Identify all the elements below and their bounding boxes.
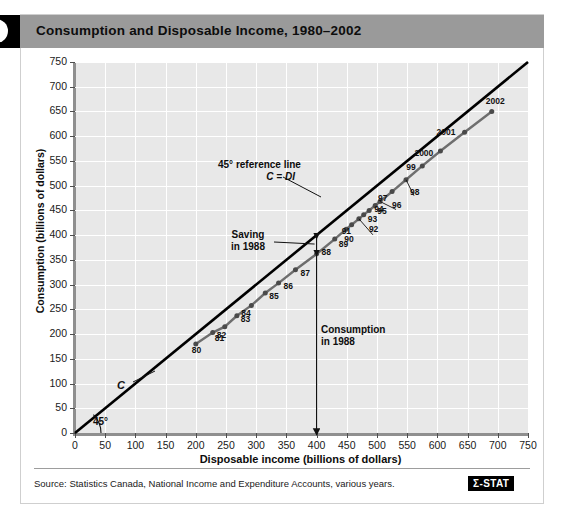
gridline-horizontal <box>75 334 528 335</box>
gridline-vertical <box>166 62 167 433</box>
x-tick-label: 750 <box>508 439 548 451</box>
angle-45-label: 45° <box>93 416 108 427</box>
annotation-saving: Saving in 1988 <box>217 229 279 253</box>
point-label-92: 92 <box>369 224 378 234</box>
point-label-84: 84 <box>241 308 250 318</box>
point-label-91: 91 <box>342 226 351 236</box>
point-label-80: 80 <box>192 345 201 355</box>
y-tick-mark <box>70 87 75 88</box>
y-tick-mark <box>70 136 75 137</box>
gridline-vertical <box>317 62 318 433</box>
y-tick-mark <box>70 161 75 162</box>
y-tick-mark <box>70 309 75 310</box>
point-label-93: 93 <box>368 214 377 224</box>
tab-arc-icon <box>0 19 8 43</box>
y-tick-label: 600 <box>27 129 67 141</box>
annotation-consumption-1: Consumption <box>321 324 385 335</box>
y-tick-label: 250 <box>27 302 67 314</box>
point-label-87: 87 <box>300 268 309 278</box>
y-tick-label: 700 <box>27 80 67 92</box>
figure-title: Consumption and Disposable Income, 1980–… <box>36 23 361 38</box>
x-tick-mark <box>437 433 438 438</box>
y-tick-label: 0 <box>27 426 67 438</box>
gridline-vertical <box>135 62 136 433</box>
x-tick-mark <box>105 433 106 438</box>
gridline-vertical <box>105 62 106 433</box>
point-label-86: 86 <box>284 281 293 291</box>
y-tick-label: 450 <box>27 203 67 215</box>
y-axis-line <box>73 62 76 433</box>
point-label-97: 97 <box>378 193 387 203</box>
x-tick-mark <box>377 433 378 438</box>
y-tick-mark <box>70 111 75 112</box>
point-label-95: 95 <box>377 206 386 216</box>
x-tick-mark <box>196 433 197 438</box>
gridline-horizontal <box>75 111 528 112</box>
y-tick-mark <box>70 62 75 63</box>
gridline-horizontal <box>75 136 528 137</box>
footer-divider <box>34 468 530 469</box>
x-axis-line <box>73 433 528 436</box>
y-tick-label: 150 <box>27 352 67 364</box>
figure-header-band: Consumption and Disposable Income, 1980–… <box>20 15 544 48</box>
annotation-reference-line-2: C = DI <box>218 171 301 183</box>
gridline-horizontal <box>75 62 528 63</box>
plot-region <box>75 62 528 433</box>
y-tick-label: 500 <box>27 179 67 191</box>
point-label-96: 96 <box>392 200 401 210</box>
point-label-98: 98 <box>410 187 419 197</box>
y-tick-label: 200 <box>27 327 67 339</box>
y-tick-label: 400 <box>27 228 67 240</box>
point-label-85: 85 <box>269 291 278 301</box>
gridline-horizontal <box>75 260 528 261</box>
figure-container: Consumption and Disposable Income, 1980–… <box>0 0 564 524</box>
point-label-88: 88 <box>322 247 331 257</box>
gridline-vertical <box>377 62 378 433</box>
gridline-horizontal <box>75 87 528 88</box>
gridline-vertical <box>437 62 438 433</box>
y-tick-label: 750 <box>27 55 67 67</box>
y-tick-mark <box>70 235 75 236</box>
y-tick-mark <box>70 260 75 261</box>
y-tick-mark <box>70 359 75 360</box>
y-tick-mark <box>70 408 75 409</box>
x-axis-label: Disposable income (billions of dollars) <box>73 453 528 465</box>
gridline-vertical <box>468 62 469 433</box>
gridline-vertical <box>498 62 499 433</box>
gridline-vertical <box>196 62 197 433</box>
y-tick-mark <box>70 334 75 335</box>
gridline-vertical <box>286 62 287 433</box>
y-tick-mark <box>70 210 75 211</box>
annotation-consumption: Consumption in 1988 <box>321 324 385 348</box>
point-label-99: 99 <box>406 162 415 172</box>
x-tick-mark <box>528 433 529 438</box>
gridline-horizontal <box>75 210 528 211</box>
annotation-saving-1: Saving <box>232 229 265 240</box>
gridline-vertical <box>528 62 529 433</box>
gridline-horizontal <box>75 309 528 310</box>
gridline-horizontal <box>75 235 528 236</box>
source-note: Source: Statistics Canada, National Inco… <box>34 478 395 489</box>
x-tick-mark <box>75 433 76 438</box>
x-tick-mark <box>166 433 167 438</box>
x-tick-mark <box>317 433 318 438</box>
consumption-curve-label: C <box>117 379 125 391</box>
estat-logo: Σ-STAT <box>468 476 514 491</box>
chart-area: 0501001502002503003504004505005506006507… <box>21 49 543 467</box>
gridline-horizontal <box>75 384 528 385</box>
y-tick-mark <box>70 285 75 286</box>
gridline-horizontal <box>75 408 528 409</box>
gridline-horizontal <box>75 359 528 360</box>
x-tick-mark <box>468 433 469 438</box>
gridline-horizontal <box>75 285 528 286</box>
y-tick-label: 350 <box>27 253 67 265</box>
x-tick-mark <box>286 433 287 438</box>
y-tick-label: 650 <box>27 104 67 116</box>
annotation-consumption-2: in 1988 <box>321 336 355 347</box>
x-tick-mark <box>498 433 499 438</box>
x-tick-mark <box>256 433 257 438</box>
y-tick-label: 100 <box>27 377 67 389</box>
y-tick-mark <box>70 384 75 385</box>
point-label-82: 82 <box>217 330 226 340</box>
point-label-2002: 2002 <box>486 96 505 106</box>
